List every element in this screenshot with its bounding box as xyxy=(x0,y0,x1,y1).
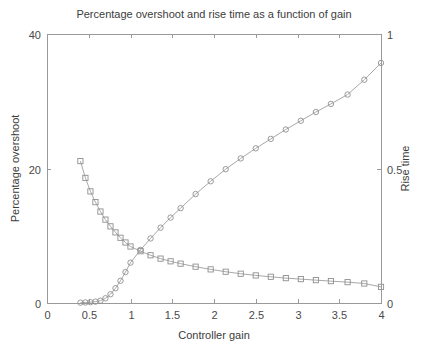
x-axis-label: Controller gain xyxy=(178,329,250,341)
series-line-1 xyxy=(80,161,381,287)
x-tick-label: 1.5 xyxy=(165,309,180,321)
x-tick-label: 3 xyxy=(295,309,301,321)
x-tick-label: 2 xyxy=(211,309,217,321)
y-tick-label: 20 xyxy=(29,164,41,176)
series-line-0 xyxy=(80,63,381,303)
y2-tick-label: 0 xyxy=(387,298,393,310)
chart-title: Percentage overshoot and rise time as a … xyxy=(76,8,351,20)
y-tick-label: 0 xyxy=(35,298,41,310)
x-tick-label: 3.5 xyxy=(332,309,347,321)
x-tick-label: 0.5 xyxy=(82,309,97,321)
x-tick-label: 4 xyxy=(378,309,384,321)
plot-frame xyxy=(48,35,382,304)
y-axis-label: Percentage overshoot xyxy=(9,115,21,223)
y2-axis-label: Rise time xyxy=(399,146,411,192)
x-tick-label: 0 xyxy=(44,309,50,321)
series-group xyxy=(78,60,384,305)
y-tick-label: 40 xyxy=(29,29,41,41)
x-tick-label: 2.5 xyxy=(249,309,264,321)
x-axis-ticks: 00.511.522.533.54 xyxy=(44,34,384,321)
x-tick-label: 1 xyxy=(128,309,134,321)
y2-tick-label: 1 xyxy=(387,29,393,41)
chart-canvas: Percentage overshoot and rise time as a … xyxy=(0,0,425,350)
chart-figure: Percentage overshoot and rise time as a … xyxy=(0,0,425,350)
